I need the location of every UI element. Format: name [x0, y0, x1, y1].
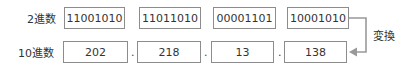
- conversion-arrow-icon: [0, 0, 417, 66]
- conversion-label: 変換: [373, 27, 395, 43]
